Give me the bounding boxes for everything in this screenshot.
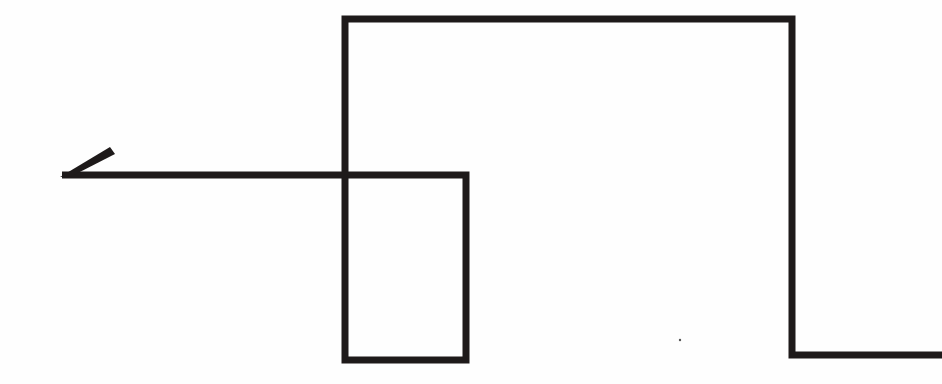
- line-diagram: [0, 0, 942, 384]
- continuous-line-path: [62, 19, 942, 360]
- line-diagram-canvas: [0, 0, 942, 384]
- speck-artifact: [679, 339, 681, 341]
